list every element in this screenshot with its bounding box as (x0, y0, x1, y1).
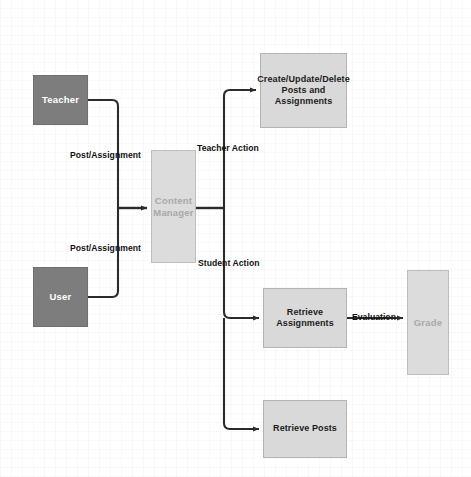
node-content-manager-label: Content Manager (153, 195, 193, 219)
connector-layer (0, 0, 471, 477)
edge-label-teacher-action: Teacher Action (197, 144, 259, 153)
node-retrieve-assignments[interactable]: Retrieve Assignments (263, 288, 347, 348)
node-user[interactable]: User (33, 267, 88, 327)
edge-label-student-action: Student Action (198, 259, 260, 268)
node-content-manager[interactable]: Content Manager (151, 150, 196, 263)
node-create-update-delete[interactable]: Create/Update/Delete Posts and Assignmen… (260, 53, 347, 128)
node-retrieve-posts[interactable]: Retrieve Posts (263, 400, 347, 458)
node-retrieve-posts-label: Retrieve Posts (273, 423, 337, 434)
node-grade-label: Grade (414, 317, 442, 329)
node-retrieve-assignments-label: Retrieve Assignments (276, 307, 334, 330)
edge-label-evaluation: Evaluation (352, 313, 396, 322)
node-teacher[interactable]: Teacher (33, 75, 88, 125)
node-create-update-delete-label: Create/Update/Delete Posts and Assignmen… (257, 74, 350, 108)
node-grade[interactable]: Grade (407, 270, 449, 375)
edge-label-post-assignment-bottom: Post/Assignment (70, 244, 141, 253)
node-teacher-label: Teacher (42, 94, 79, 106)
connector-student-action-to-retrieve-posts (224, 318, 259, 429)
node-user-label: User (50, 291, 72, 303)
diagram-canvas: Teacher User Content Manager Create/Upda… (0, 0, 471, 477)
edge-label-post-assignment-top: Post/Assignment (70, 151, 141, 160)
